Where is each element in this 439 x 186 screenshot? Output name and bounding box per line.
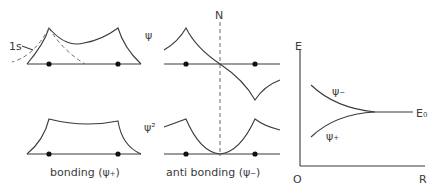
antibonding-caption: anti bonding (ψ₋) xyxy=(166,166,260,179)
node-label: N xyxy=(215,9,223,22)
bonding-energy-curve xyxy=(311,112,375,137)
bonding-caption: bonding (ψ₊) xyxy=(50,166,120,179)
nucleus-b-dot xyxy=(115,61,120,66)
psi-axis-label: ψ xyxy=(145,29,152,42)
distance-axis-label: R xyxy=(419,173,427,186)
antibonding-density-curve xyxy=(164,119,280,154)
1s-label: 1s xyxy=(9,40,22,53)
bonding-density-curve xyxy=(27,119,141,154)
1s-leader-line xyxy=(22,46,33,50)
e0-label: E₀ xyxy=(416,107,428,120)
nucleus-b-dot xyxy=(115,151,120,156)
psi-minus-label: ψ₋ xyxy=(332,85,345,98)
bonding-psi-panel: 1s ψ xyxy=(9,28,152,67)
nucleus-a-dot xyxy=(183,61,188,66)
bonding-wavefunction-curve xyxy=(27,28,141,64)
antibonding-psi-panel xyxy=(164,28,280,100)
nucleus-a-dot xyxy=(46,151,51,156)
nucleus-a-dot xyxy=(183,151,188,156)
molecular-orbital-diagram: 1s ψ bonding (ψ₊) N ψ² anti bonding (ψ₋)… xyxy=(0,0,439,186)
psi-squared-axis-label: ψ² xyxy=(144,121,156,134)
origin-label: O xyxy=(293,173,302,186)
nucleus-b-dot xyxy=(252,61,257,66)
energy-axis-label: E xyxy=(295,40,302,53)
psi-plus-label: ψ₊ xyxy=(326,130,339,143)
nucleus-a-dot xyxy=(46,61,51,66)
nucleus-b-dot xyxy=(252,151,257,156)
antibonding-psi-squared-panel: ψ² anti bonding (ψ₋) xyxy=(144,119,280,179)
bonding-psi-squared-panel: bonding (ψ₊) xyxy=(27,119,141,179)
energy-plot: E R O E₀ ψ₋ ψ₊ xyxy=(293,40,428,186)
